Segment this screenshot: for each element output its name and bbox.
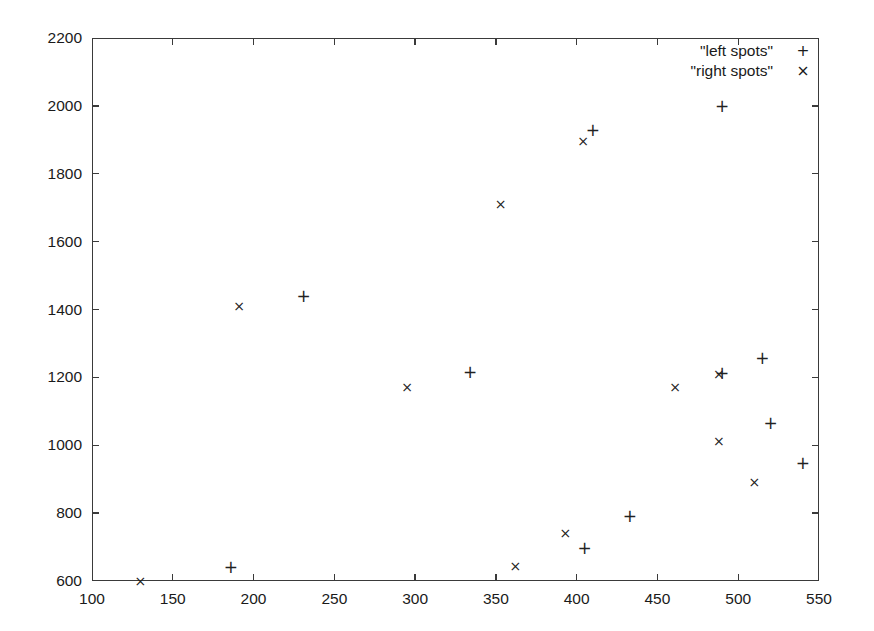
- data-point-left-spots-9: +: [763, 415, 779, 431]
- data-point-right-spots-3: ×: [493, 196, 509, 212]
- y-tick-label-1400: 1400: [22, 301, 82, 319]
- x-tick-top-200: [253, 38, 254, 45]
- y-tick-1400: [92, 309, 99, 310]
- x-tick-200: [253, 574, 254, 581]
- data-point-left-spots-2: +: [462, 364, 478, 380]
- y-tick-1600: [92, 241, 99, 242]
- scatter-plot: 100150200250300350400450500550 600800100…: [0, 0, 874, 631]
- data-point-left-spots-3: +: [577, 540, 593, 556]
- x-tick-label-100: 100: [62, 590, 122, 608]
- legend-label-0: "left spots": [700, 42, 773, 60]
- legend-entry-0: "left spots"+: [589, 42, 819, 62]
- plot-frame: [92, 38, 819, 581]
- data-point-left-spots-6: +: [714, 98, 730, 114]
- data-point-left-spots-0: +: [223, 559, 239, 575]
- data-point-right-spots-8: ×: [711, 366, 727, 382]
- y-tick-right-1800: [812, 173, 819, 174]
- x-tick-label-350: 350: [466, 590, 526, 608]
- chart-legend: "left spots"+"right spots"×: [589, 42, 819, 82]
- y-tick-label-2000: 2000: [22, 97, 82, 115]
- x-tick-label-450: 450: [627, 590, 687, 608]
- x-tick-label-200: 200: [224, 590, 284, 608]
- data-point-right-spots-4: ×: [507, 558, 523, 574]
- legend-marker-cross-icon: ×: [793, 62, 813, 80]
- y-tick-right-1600: [812, 241, 819, 242]
- x-tick-label-300: 300: [385, 590, 445, 608]
- data-point-left-spots-10: +: [795, 455, 811, 471]
- data-point-left-spots-5: +: [622, 508, 638, 524]
- x-tick-300: [414, 574, 415, 581]
- y-tick-800: [92, 512, 99, 513]
- x-tick-250: [334, 574, 335, 581]
- data-point-left-spots-1: +: [296, 288, 312, 304]
- y-tick-right-1400: [812, 309, 819, 310]
- y-tick-label-1000: 1000: [22, 436, 82, 454]
- x-tick-150: [172, 574, 173, 581]
- x-tick-top-250: [334, 38, 335, 45]
- x-tick-label-500: 500: [708, 590, 768, 608]
- x-tick-top-300: [414, 38, 415, 45]
- data-point-left-spots-8: +: [754, 350, 770, 366]
- data-point-right-spots-2: ×: [399, 379, 415, 395]
- x-tick-350: [495, 574, 496, 581]
- legend-marker-plus-icon: +: [793, 42, 813, 60]
- y-tick-label-1600: 1600: [22, 233, 82, 251]
- y-tick-1800: [92, 173, 99, 174]
- y-tick-1000: [92, 445, 99, 446]
- legend-label-1: "right spots": [690, 62, 773, 80]
- data-point-right-spots-7: ×: [667, 379, 683, 395]
- y-tick-label-2200: 2200: [22, 29, 82, 47]
- data-point-right-spots-5: ×: [557, 525, 573, 541]
- legend-entry-1: "right spots"×: [589, 62, 819, 82]
- x-tick-label-150: 150: [143, 590, 203, 608]
- y-tick-right-2000: [812, 105, 819, 106]
- x-tick-label-250: 250: [304, 590, 364, 608]
- x-tick-top-400: [576, 38, 577, 45]
- x-tick-label-400: 400: [547, 590, 607, 608]
- x-tick-label-550: 550: [789, 590, 849, 608]
- x-tick-top-150: [172, 38, 173, 45]
- y-tick-label-1200: 1200: [22, 368, 82, 386]
- data-point-right-spots-1: ×: [231, 298, 247, 314]
- y-tick-2000: [92, 105, 99, 106]
- x-tick-500: [738, 574, 739, 581]
- x-tick-450: [657, 574, 658, 581]
- y-tick-right-1000: [812, 445, 819, 446]
- data-point-right-spots-10: ×: [746, 474, 762, 490]
- y-tick-label-1800: 1800: [22, 165, 82, 183]
- data-point-right-spots-0: ×: [132, 573, 148, 589]
- x-tick-top-350: [495, 38, 496, 45]
- data-point-right-spots-9: ×: [711, 433, 727, 449]
- y-tick-label-800: 800: [22, 504, 82, 522]
- y-tick-1200: [92, 377, 99, 378]
- y-tick-right-1200: [812, 377, 819, 378]
- x-tick-400: [576, 574, 577, 581]
- y-tick-label-600: 600: [22, 572, 82, 590]
- y-tick-right-800: [812, 512, 819, 513]
- data-point-right-spots-6: ×: [575, 133, 591, 149]
